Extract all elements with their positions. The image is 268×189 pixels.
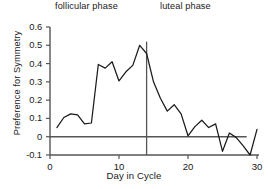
data-series-line xyxy=(57,45,257,155)
axis-lines xyxy=(50,27,259,155)
x-axis-title: Day in Cycle xyxy=(0,170,268,181)
y-axis-title: Preference for Symmetry xyxy=(12,18,22,148)
y-tick-label: -0.1 xyxy=(14,149,42,160)
chart-figure: follicular phase luteal phase -0.100.10.… xyxy=(0,0,268,189)
